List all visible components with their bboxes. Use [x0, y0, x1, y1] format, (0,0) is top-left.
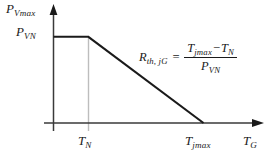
numerator-term2-symbol: T [221, 41, 228, 55]
denominator-symbol: P [201, 59, 209, 73]
equation-lhs: Rth, jG [139, 50, 171, 65]
equation-annotation: Rth, jG = Tjmax−TN PVN [139, 41, 237, 74]
y-axis-arrow [50, 4, 58, 15]
plot-area [0, 0, 273, 159]
numerator-operator: − [212, 41, 221, 55]
y-tick-label-subscript: VN [24, 31, 36, 41]
equation-lhs-subscript: th, jG [147, 56, 168, 66]
denominator-subscript: VN [209, 65, 221, 75]
y-axis-title: PVmax [6, 2, 35, 15]
x-tick-tn-subscript: N [85, 140, 91, 150]
x-axis-title-subscript: G [250, 140, 257, 150]
x-tick-label-tjmax: Tjmax [185, 134, 211, 147]
figure-container: PVmax PVN TN Tjmax TG Rth, jG = Tjmax−TN… [0, 0, 273, 159]
y-tick-label-symbol: P [16, 24, 24, 39]
equation-denominator: PVN [198, 58, 223, 74]
numerator-term2-subscript: N [228, 47, 234, 57]
x-axis-title: TG [243, 134, 257, 147]
x-tick-label-tn: TN [78, 134, 92, 147]
y-tick-label-pvn: PVN [16, 25, 36, 38]
y-axis-title-subscript: Vmax [14, 8, 36, 18]
equation-numerator: Tjmax−TN [184, 41, 237, 57]
x-tick-tjmax-subscript: jmax [192, 140, 210, 150]
x-axis-arrow [252, 119, 264, 127]
y-axis-title-symbol: P [6, 1, 14, 16]
equation-fraction: Tjmax−TN PVN [184, 41, 237, 74]
equation-lhs-symbol: R [139, 50, 147, 64]
numerator-term1-subscript: jmax [194, 47, 212, 57]
equation-equals-sign: = [171, 50, 184, 65]
